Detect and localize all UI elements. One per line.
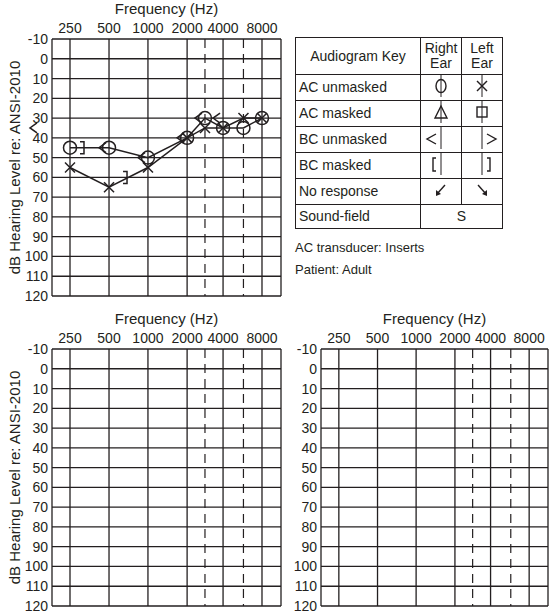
db-tick-label: 10 <box>32 381 48 397</box>
freq-tick-label: 2000 <box>172 330 203 346</box>
db-tick-label: 80 <box>301 519 317 535</box>
db-tick-label: 90 <box>32 229 48 245</box>
audiogram-upper <box>52 39 281 296</box>
arrow-down-right-icon <box>462 179 503 205</box>
patient-info: Patient: Adult <box>295 262 372 277</box>
db-tick-label: 100 <box>25 248 49 264</box>
db-tick-label: 10 <box>32 71 48 87</box>
db-tick-label: 70 <box>32 189 48 205</box>
db-tick-label: 110 <box>26 578 49 594</box>
legend-label: BC masked <box>296 153 421 179</box>
freq-tick-label: 4000 <box>475 330 506 346</box>
frequency-axis-title: Frequency (Hz) <box>115 310 218 327</box>
freq-tick-label: 500 <box>97 330 121 346</box>
db-tick-label: 90 <box>301 539 317 555</box>
db-tick-label: 20 <box>301 400 317 416</box>
legend-label: AC masked <box>296 101 421 127</box>
circle-icon <box>421 75 462 101</box>
db-tick-label: 60 <box>32 169 48 185</box>
db-tick-label: 50 <box>32 460 48 476</box>
db-axis-title: dB Hearing Level re: ANSI-2010 <box>6 61 23 274</box>
db-tick-label: 100 <box>25 558 49 574</box>
freq-tick-label: 2000 <box>439 330 470 346</box>
db-tick-label: 40 <box>301 440 317 456</box>
x-mark-icon <box>462 75 503 101</box>
left-ear-header: Left Ear <box>462 38 503 75</box>
frequency-axis-title: Frequency (Hz) <box>115 0 218 17</box>
db-tick-label: 50 <box>301 460 317 476</box>
db-tick-label: 80 <box>32 519 48 535</box>
db-tick-label: 80 <box>32 209 48 225</box>
db-tick-label: -10 <box>28 31 48 47</box>
db-tick-label: 20 <box>32 90 48 106</box>
db-tick-label: 0 <box>309 361 317 377</box>
db-tick-label: 60 <box>301 479 317 495</box>
freq-tick-label: 1000 <box>401 330 432 346</box>
key-header: Audiogram Key <box>296 38 421 75</box>
audiogram-lower-right <box>321 349 548 606</box>
transducer-info: AC transducer: Inserts <box>295 240 424 255</box>
db-tick-label: 40 <box>32 440 48 456</box>
freq-tick-label: 250 <box>327 330 351 346</box>
legend-label: AC unmasked <box>296 75 421 101</box>
greater-than-icon <box>462 127 503 153</box>
db-tick-label: 30 <box>301 420 317 436</box>
freq-tick-label: 250 <box>58 330 82 346</box>
freq-tick-label: 500 <box>366 330 390 346</box>
db-tick-label: 120 <box>294 598 318 614</box>
freq-tick-label: 4000 <box>207 20 238 36</box>
db-tick-label: 50 <box>32 150 48 166</box>
db-tick-label: 30 <box>32 420 48 436</box>
db-tick-label: 100 <box>294 558 318 574</box>
db-tick-label: 90 <box>32 539 48 555</box>
db-tick-label: 120 <box>25 598 49 614</box>
db-tick-label: 110 <box>26 268 49 284</box>
db-tick-label: -10 <box>28 341 48 357</box>
freq-tick-label: 500 <box>97 20 121 36</box>
db-tick-label: 60 <box>32 479 48 495</box>
freq-tick-label: 8000 <box>514 330 545 346</box>
db-tick-label: 20 <box>32 400 48 416</box>
db-tick-label: 110 <box>295 578 318 594</box>
frequency-axis-title: Frequency (Hz) <box>383 310 486 327</box>
legend-label: BC unmasked <box>296 127 421 153</box>
arrow-down-left-icon <box>421 179 462 205</box>
db-tick-label: 10 <box>301 381 317 397</box>
freq-tick-label: 1000 <box>132 330 163 346</box>
audiogram-lower-left <box>52 349 281 606</box>
upper-plot-data <box>30 112 268 193</box>
right-ear-header: Right Ear <box>421 38 462 75</box>
freq-tick-label: 2000 <box>172 20 203 36</box>
freq-tick-label: 250 <box>58 20 82 36</box>
close-bracket-icon <box>462 153 503 179</box>
db-tick-label: 120 <box>25 288 49 304</box>
open-bracket-icon <box>421 153 462 179</box>
legend-label: Sound-field <box>296 205 421 229</box>
db-tick-label: 70 <box>32 499 48 515</box>
freq-tick-label: 1000 <box>132 20 163 36</box>
freq-tick-label: 4000 <box>207 330 238 346</box>
audiogram-key-table: Audiogram Key Right Ear Left Ear AC unma… <box>295 37 503 229</box>
freq-tick-label: 8000 <box>246 20 277 36</box>
less-than-icon <box>421 127 462 153</box>
freq-tick-label: 8000 <box>246 330 277 346</box>
legend-label: No response <box>296 179 421 205</box>
db-axis-title: dB Hearing Level re: ANSI-2010 <box>6 371 23 584</box>
sound-field-symbol: S <box>421 205 503 229</box>
db-tick-label: 70 <box>301 499 317 515</box>
db-tick-label: 0 <box>40 51 48 67</box>
square-icon <box>462 101 503 127</box>
db-tick-label: -10 <box>297 341 317 357</box>
db-tick-label: 0 <box>40 361 48 377</box>
triangle-icon <box>421 101 462 127</box>
